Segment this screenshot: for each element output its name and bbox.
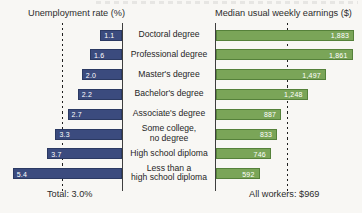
earnings-bar: 746	[216, 148, 271, 159]
unemployment-bar: 3.7	[47, 148, 122, 159]
all-workers-reference-line	[287, 23, 288, 191]
category-label: Master's degree	[123, 70, 215, 80]
earnings-value: 1,497	[302, 71, 321, 78]
total-rate-label: Total: 3.0%	[47, 189, 92, 199]
category-label: Some college, no degree	[123, 124, 215, 143]
right-chart-baseline-axis	[215, 23, 216, 191]
unemployment-value: 2.2	[82, 91, 92, 98]
earnings-value: 746	[254, 150, 266, 157]
category-label: Associate's degree	[123, 109, 215, 119]
earnings-unemployment-chart: Unemployment rate (%) Median usual weekl…	[0, 0, 362, 213]
unemployment-value: 2.0	[86, 71, 96, 78]
earnings-value: 1,861	[329, 51, 348, 58]
all-workers-label: All workers: $969	[249, 189, 319, 199]
unemployment-value: 1.1	[104, 32, 114, 39]
unemployment-value: 5.4	[17, 170, 27, 177]
earnings-value: 833	[260, 131, 272, 138]
unemployment-bar: 1.6	[90, 49, 123, 60]
unemployment-bar: 3.3	[55, 129, 122, 140]
total-rate-reference-line	[62, 23, 63, 191]
unemployment-value: 1.6	[94, 51, 104, 58]
unemployment-bar: 2.0	[82, 69, 123, 80]
earnings-value: 887	[264, 111, 276, 118]
unemployment-bar: 2.2	[78, 89, 123, 100]
earnings-value: 592	[242, 170, 254, 177]
earnings-bar: 1,883	[216, 30, 354, 41]
unemployment-value: 3.7	[51, 150, 61, 157]
category-label: High school diploma	[123, 149, 215, 159]
earnings-value: 1,248	[284, 91, 303, 98]
earnings-bar: 833	[216, 129, 277, 140]
category-label: Professional degree	[123, 50, 215, 60]
category-label: Bachelor's degree	[123, 90, 215, 100]
earnings-bar: 887	[216, 109, 281, 120]
earnings-bar: 1,497	[216, 69, 326, 80]
earnings-bar: 592	[216, 168, 259, 179]
unemployment-value: 3.3	[59, 131, 69, 138]
unemployment-bar: 1.1	[100, 30, 122, 41]
unemployment-value: 2.7	[72, 111, 82, 118]
unemployment-bar: 5.4	[13, 168, 123, 179]
earnings-value: 1,883	[331, 32, 350, 39]
left-axis-title: Unemployment rate (%)	[28, 8, 125, 18]
earnings-bar: 1,861	[216, 49, 352, 60]
right-axis-title: Median usual weekly earnings ($)	[215, 8, 352, 18]
unemployment-bar: 2.7	[68, 109, 123, 120]
category-label: Doctoral degree	[123, 30, 215, 40]
category-label: Less than a high school diploma	[123, 164, 215, 183]
earnings-bar: 1,248	[216, 89, 307, 100]
cropped-title-fragment	[96, 1, 358, 4]
